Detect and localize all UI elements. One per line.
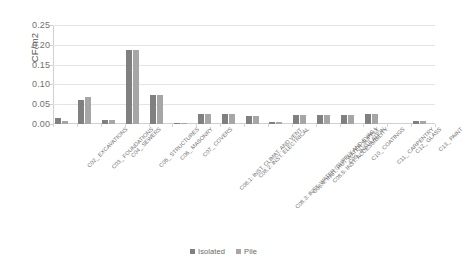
- y-axis-tick-label: 0.20: [32, 40, 50, 50]
- bar[interactable]: [55, 118, 61, 124]
- bar[interactable]: [293, 115, 299, 125]
- bar[interactable]: [365, 114, 371, 124]
- legend-swatch-icon: [190, 249, 195, 254]
- bar[interactable]: [276, 122, 282, 124]
- bar-group: [125, 25, 149, 124]
- bar-group: [292, 25, 316, 124]
- bar[interactable]: [348, 115, 354, 125]
- x-axis-category-label: C08.2: INST. ELECTRICAL: [257, 126, 310, 179]
- y-axis-tick-label: 0.25: [32, 20, 50, 30]
- bar[interactable]: [317, 115, 323, 125]
- y-axis-tick-label: 0.05: [32, 99, 50, 109]
- bar-group: [220, 25, 244, 124]
- bar[interactable]: [253, 116, 259, 124]
- bar-group: [172, 25, 196, 124]
- x-axis-category-label: C02_ EXCAVATIONS: [86, 126, 129, 169]
- bar[interactable]: [300, 115, 306, 125]
- chart-legend: IsolatedPile: [0, 247, 447, 256]
- bar-group: [268, 25, 292, 124]
- bar[interactable]: [85, 97, 91, 124]
- y-axis-tick-label: 0.10: [32, 79, 50, 89]
- bar[interactable]: [205, 114, 211, 124]
- x-axis-category-labels: C02_ EXCAVATIONSC03_ FOUNDATIONSC04_ SEW…: [53, 126, 435, 236]
- bar[interactable]: [150, 95, 156, 124]
- bar[interactable]: [198, 114, 204, 124]
- bar[interactable]: [246, 116, 252, 124]
- y-axis-tick-label: 0.00: [32, 119, 50, 129]
- bar[interactable]: [229, 114, 235, 124]
- bar[interactable]: [372, 114, 378, 124]
- bar[interactable]: [109, 120, 115, 124]
- bar-group: [340, 25, 364, 124]
- bar[interactable]: [420, 121, 426, 124]
- bar[interactable]: [102, 120, 108, 124]
- bar-group: [101, 25, 125, 124]
- bar[interactable]: [181, 123, 187, 124]
- bar-group: [196, 25, 220, 124]
- bar[interactable]: [78, 100, 84, 124]
- bar[interactable]: [269, 122, 275, 124]
- bar[interactable]: [62, 121, 68, 124]
- legend-item[interactable]: Pile: [236, 247, 257, 256]
- y-axis-tick-label: 0.15: [32, 60, 50, 70]
- bar-group: [363, 25, 387, 124]
- bar-group: [316, 25, 340, 124]
- bar-group: [244, 25, 268, 124]
- legend-label: Pile: [244, 247, 257, 256]
- legend-label: Isolated: [198, 247, 225, 256]
- bar[interactable]: [413, 121, 419, 124]
- bar-group: [411, 25, 435, 124]
- bar[interactable]: [341, 115, 347, 125]
- legend-item[interactable]: Isolated: [190, 247, 225, 256]
- bar[interactable]: [133, 50, 139, 124]
- plot-area: [53, 25, 435, 124]
- legend-swatch-icon: [236, 249, 241, 254]
- bar-group: [53, 25, 77, 124]
- bar[interactable]: [126, 50, 132, 124]
- bar-group: [149, 25, 173, 124]
- y-axis-tick-labels: 0.000.050.100.150.200.25: [16, 0, 50, 267]
- bar[interactable]: [324, 115, 330, 125]
- bar-group: [77, 25, 101, 124]
- bar[interactable]: [157, 95, 163, 124]
- bar[interactable]: [222, 114, 228, 124]
- bar-group: [387, 25, 411, 124]
- bar[interactable]: [174, 123, 180, 124]
